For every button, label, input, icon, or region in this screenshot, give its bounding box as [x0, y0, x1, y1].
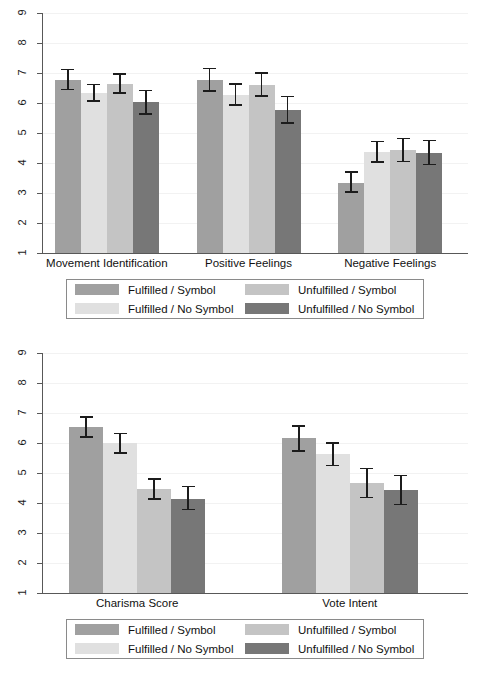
error-bar-stem: [366, 468, 368, 499]
legend-item: Fulfilled / No Symbol: [75, 639, 245, 658]
y-tick-mark: [37, 193, 42, 194]
bar: [133, 102, 159, 253]
category-label: Negative Feelings: [270, 257, 482, 269]
bar: [223, 95, 249, 253]
error-bar-cap-top: [326, 442, 339, 444]
y-tick-mark: [37, 443, 42, 444]
error-bar-cap-bottom: [255, 95, 268, 97]
error-bar-cap-bottom: [360, 497, 373, 499]
error-bar-cap-top: [80, 416, 93, 418]
legend-label: Fulfilled / Symbol: [128, 624, 216, 636]
error-bar-stem: [119, 433, 121, 454]
error-bar-stem: [235, 83, 237, 106]
error-bar-cap-bottom: [87, 100, 100, 102]
y-tick-mark: [37, 103, 42, 104]
error-bar-stem: [93, 84, 95, 102]
error-bar: [281, 96, 294, 124]
legend-swatch: [245, 643, 289, 654]
error-bar-stem: [376, 141, 378, 164]
y-tick-mark: [37, 503, 42, 504]
error-bar-cap-bottom: [394, 504, 407, 506]
error-bar-cap-top: [371, 141, 384, 143]
error-bar: [114, 433, 127, 454]
error-bar-stem: [67, 69, 69, 91]
gridline: [43, 383, 468, 384]
legend-label: Unfulfilled / No Symbol: [298, 643, 414, 655]
legend-label: Unfulfilled / Symbol: [298, 624, 396, 636]
error-bar: [61, 69, 74, 91]
bar: [350, 483, 384, 593]
error-bar-cap-top: [113, 73, 126, 75]
y-tick-mark: [37, 223, 42, 224]
error-bar-stem: [402, 138, 404, 163]
error-bar-cap-bottom: [203, 90, 216, 92]
error-bar: [423, 140, 436, 166]
bar: [81, 93, 107, 253]
error-bar-cap-bottom: [326, 465, 339, 467]
error-bar-cap-top: [87, 84, 100, 86]
y-tick-mark: [37, 563, 42, 564]
error-bar-cap-top: [61, 69, 74, 71]
y-tick-mark: [37, 43, 42, 44]
legend-swatch: [75, 284, 119, 295]
y-tick-mark: [37, 353, 42, 354]
error-bar: [148, 478, 161, 500]
error-bar-cap-top: [360, 468, 373, 470]
bar: [137, 489, 171, 593]
legend-swatch: [245, 303, 289, 314]
error-bar-stem: [85, 416, 87, 438]
error-bar-cap-top: [182, 486, 195, 488]
gridline: [43, 413, 468, 414]
legend-label: Fulfilled / No Symbol: [128, 643, 233, 655]
plot-area: [43, 13, 468, 253]
error-bar: [394, 475, 407, 506]
error-bar-cap-top: [423, 140, 436, 142]
error-bar-stem: [153, 478, 155, 500]
y-tick-label: 7: [17, 406, 28, 420]
bar: [107, 84, 133, 253]
y-tick-mark: [37, 133, 42, 134]
y-tick-label: 5: [17, 466, 28, 480]
error-bar-cap-bottom: [281, 122, 294, 124]
error-bar: [371, 141, 384, 164]
legend-swatch: [245, 284, 289, 295]
legend-label: Fulfilled / No Symbol: [128, 303, 233, 315]
bar: [103, 443, 137, 593]
y-tick-label: 5: [17, 126, 28, 140]
y-tick-label: 2: [17, 556, 28, 570]
category-label: Charisma Score: [17, 597, 257, 609]
y-tick-label: 7: [17, 66, 28, 80]
error-bar-stem: [400, 475, 402, 506]
bar: [282, 438, 316, 593]
legend-item: Fulfilled / Symbol: [75, 280, 245, 299]
bar: [275, 110, 301, 253]
error-bar-stem: [187, 486, 189, 511]
y-tick-label: 3: [17, 186, 28, 200]
y-tick-mark: [37, 413, 42, 414]
error-bar-cap-bottom: [423, 164, 436, 166]
error-bar-cap-top: [139, 90, 152, 92]
bar: [384, 490, 418, 593]
error-bar: [345, 171, 358, 193]
y-tick-mark: [37, 593, 42, 594]
error-bar-cap-bottom: [345, 191, 358, 193]
error-bar: [229, 83, 242, 106]
error-bar: [397, 138, 410, 163]
x-axis-line: [42, 593, 468, 594]
figure-container: 123456789Movement IdentificationPositive…: [0, 0, 482, 680]
error-bar-stem: [428, 140, 430, 166]
y-tick-label: 2: [17, 216, 28, 230]
error-bar: [80, 416, 93, 438]
legend-label: Unfulfilled / No Symbol: [298, 303, 414, 315]
error-bar-cap-top: [203, 68, 216, 70]
error-bar: [113, 73, 126, 94]
gridline: [43, 13, 468, 14]
error-bar-cap-bottom: [139, 113, 152, 115]
y-tick-label: 6: [17, 96, 28, 110]
error-bar-cap-bottom: [229, 104, 242, 106]
y-tick-mark: [37, 13, 42, 14]
y-tick-label: 8: [17, 36, 28, 50]
error-bar-stem: [209, 68, 211, 92]
bar: [197, 80, 223, 253]
y-tick-mark: [37, 533, 42, 534]
